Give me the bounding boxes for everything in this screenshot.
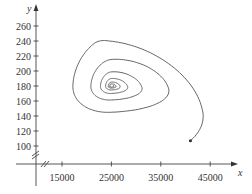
axes (16, 8, 234, 186)
y-tick-label: 200 (16, 66, 31, 77)
y-tick-label: 140 (16, 111, 31, 122)
y-tick-label: 260 (16, 21, 31, 32)
x-tick-label: 15000 (50, 172, 75, 183)
y-tick-label: 240 (16, 36, 31, 47)
trajectory-curve (73, 41, 203, 141)
x-axis-label: x (237, 167, 243, 178)
x-tick-label: 35000 (148, 172, 173, 183)
x-tick-label: 25000 (99, 172, 124, 183)
y-tick-label: 220 (16, 51, 31, 62)
ticks (34, 26, 211, 167)
tick-labels: 1500025000350004500010012014016018020022… (16, 21, 223, 184)
x-tick-label: 45000 (198, 172, 223, 183)
phase-plot: 1500025000350004500010012014016018020022… (0, 0, 252, 194)
y-tick-label: 180 (16, 81, 31, 92)
axis-break-y-icon (32, 151, 39, 159)
y-tick-label: 120 (16, 126, 31, 137)
start-point (189, 139, 192, 142)
y-tick-label: 100 (16, 141, 31, 152)
y-tick-label: 160 (16, 96, 31, 107)
y-axis-label: y (26, 3, 32, 14)
x-axis-arrow-icon (231, 162, 238, 167)
y-axis-arrow-icon (34, 4, 39, 11)
